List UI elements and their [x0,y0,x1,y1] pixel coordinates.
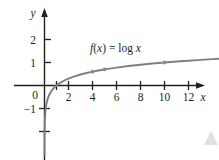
plot-canvas: y x 2 1 −1 0 2 4 6 8 10 12 f(x) = log x [0,0,219,160]
function-equation-label: f(x) = log x [90,42,142,55]
fn-equation-part: = [106,42,118,54]
log-function-graph-figure: y x 2 1 −1 0 2 4 6 8 10 12 f(x) = log x [0,0,219,160]
x-axis-arrow-icon [196,82,205,89]
data-point-marker [163,61,167,65]
y-axis-label: y [29,7,36,20]
x-axis-label: x [199,91,206,103]
y-tick-label-minus-1: −1 [24,103,36,115]
origin-label: 0 [32,89,38,101]
x-tick-label-10: 10 [159,91,171,103]
x-tick-label-4: 4 [90,91,96,103]
x-tick-label-8: 8 [138,91,144,103]
fn-equation-part: log [118,42,133,55]
data-point-marker [103,68,107,72]
fn-equation-part: x [135,42,142,54]
y-tick-label-1: 1 [30,57,36,69]
y-axis-arrow-icon [41,8,48,17]
corner-artifact [204,131,218,145]
x-tick-label-6: 6 [114,91,120,103]
x-tick-label-2: 2 [66,91,72,103]
x-tick-label-12: 12 [183,91,195,103]
data-point-marker [91,70,95,74]
log-curve [45,59,219,155]
y-tick-label-2: 2 [30,34,36,46]
